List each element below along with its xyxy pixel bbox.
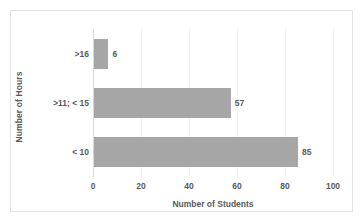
y-axis-tick-label: >11; < 15 bbox=[25, 98, 89, 108]
x-axis-tick-label: 20 bbox=[136, 181, 145, 191]
x-axis-tick-labels: 020406080100 bbox=[93, 181, 333, 195]
x-axis-tick-label: 0 bbox=[91, 181, 96, 191]
bar bbox=[94, 137, 298, 167]
plot-inner: 85576 bbox=[93, 29, 333, 177]
x-axis-tick-label: 100 bbox=[326, 181, 340, 191]
bar bbox=[94, 39, 108, 69]
bar-row: 57 bbox=[93, 88, 333, 118]
bar-row: 6 bbox=[93, 39, 333, 69]
x-axis-tick-label: 40 bbox=[184, 181, 193, 191]
bar-data-label: 6 bbox=[107, 49, 117, 59]
chart-frame: Number of Hours < 10>11; < 15>16 85576 0… bbox=[10, 10, 353, 212]
bar-data-label: 57 bbox=[230, 98, 244, 108]
x-axis-tick-label: 80 bbox=[280, 181, 289, 191]
y-axis-title-text: Number of Hours bbox=[14, 72, 24, 143]
bar bbox=[94, 88, 231, 118]
y-axis-tick-label: < 10 bbox=[25, 147, 89, 157]
bar-data-label: 85 bbox=[297, 147, 311, 157]
x-axis-tick-label: 60 bbox=[232, 181, 241, 191]
bar-row: 85 bbox=[93, 137, 333, 167]
y-axis-tick-label: >16 bbox=[25, 49, 89, 59]
x-axis-title: Number of Students bbox=[93, 199, 333, 209]
gridline-100 bbox=[333, 29, 334, 177]
plot-area: 85576 bbox=[93, 29, 333, 177]
y-axis-tick-labels: < 10>11; < 15>16 bbox=[29, 29, 93, 177]
